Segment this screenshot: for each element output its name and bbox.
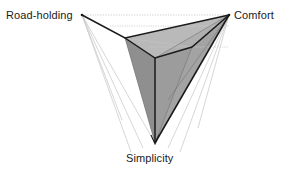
axis-label-road-holding: Road-holding <box>6 9 73 22</box>
radar-figure: Road-holding Comfort Simplicity <box>0 0 284 174</box>
radar-chart-canvas <box>0 0 284 174</box>
axis-label-comfort: Comfort <box>234 9 274 22</box>
vertex-marker-road-holding <box>81 14 84 17</box>
axis-label-simplicity: Simplicity <box>126 152 173 165</box>
vertex-marker-comfort <box>228 14 231 17</box>
